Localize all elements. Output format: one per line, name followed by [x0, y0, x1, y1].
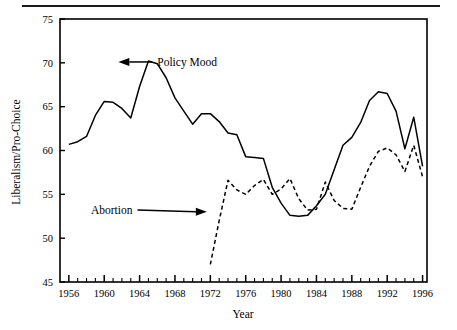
y-tick-label: 65	[43, 101, 54, 112]
policy-mood-annotation-arrowhead	[118, 58, 129, 66]
y-tick-label: 45	[43, 277, 54, 288]
x-tick-label: 1960	[94, 288, 115, 299]
x-tick-label: 1968	[164, 288, 185, 299]
x-tick-label: 1984	[306, 288, 328, 299]
policy-mood-annotation-label: Policy Mood	[157, 56, 217, 69]
y-tick-label: 60	[43, 145, 54, 156]
x-tick-label: 1976	[235, 288, 256, 299]
series-line-policy-mood	[69, 61, 423, 216]
x-tick-label: 1992	[377, 288, 398, 299]
x-tick-label: 1964	[129, 288, 151, 299]
line-chart: 45505560657075 1956196019641968197219761…	[0, 0, 457, 330]
y-axis-tick-labels: 45505560657075	[43, 14, 54, 288]
y-axis-title: Liberalism/Pro-Choice	[10, 99, 22, 204]
x-axis-ticks	[69, 275, 423, 282]
abortion-annotation-label: Abortion	[91, 204, 133, 216]
x-tick-label: 1988	[341, 288, 362, 299]
x-tick-label: 1980	[271, 288, 292, 299]
x-tick-label: 1996	[412, 288, 433, 299]
x-tick-label: 1956	[58, 288, 79, 299]
figure-container: 45505560657075 1956196019641968197219761…	[0, 0, 457, 330]
x-axis-title: Year	[232, 308, 253, 320]
top-horizontal-rule	[22, 5, 440, 7]
y-tick-label: 55	[43, 189, 54, 200]
abortion-annotation-leader	[138, 210, 196, 212]
x-tick-label: 1972	[200, 288, 221, 299]
x-axis-tick-labels: 1956196019641968197219761980198419881992…	[58, 288, 433, 299]
abortion-annotation-arrowhead	[196, 208, 207, 216]
y-tick-label: 50	[43, 233, 54, 244]
y-tick-label: 70	[43, 58, 54, 69]
annotation-layer: Policy MoodAbortion	[91, 56, 217, 216]
y-tick-label: 75	[43, 14, 54, 25]
series-layer	[69, 61, 423, 264]
